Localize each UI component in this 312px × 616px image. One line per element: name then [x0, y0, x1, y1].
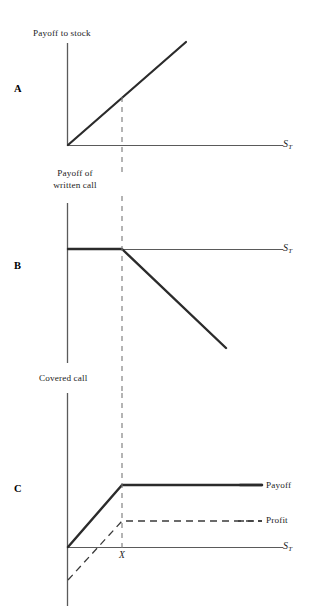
panel-a-graphics [67, 42, 283, 146]
panel-b-x-axis-label: ST [283, 242, 292, 255]
panel-c-payoff-line [68, 485, 262, 547]
panel-b-graphics [67, 203, 283, 363]
panel-b-y-axis-title: Payoff of written call [53, 168, 96, 191]
covered-call-figure: Payoff to stock A ST Payoff of written c… [0, 0, 312, 616]
legend-profit-label: Profit [266, 515, 288, 527]
panel-b-x-axis-label-sub: T [288, 247, 292, 255]
panel-a-x-axis-label: ST [283, 138, 292, 151]
panel-a-letter: A [14, 82, 22, 95]
panel-a-x-axis-label-sub: T [288, 143, 292, 151]
panel-c-letter: C [14, 482, 22, 495]
panel-b-y-axis-title-line2: written call [53, 180, 96, 192]
panel-c-legend-swatches [238, 485, 262, 521]
panel-b-letter: B [14, 259, 21, 272]
panel-a-stock-payoff-line [68, 42, 186, 145]
panel-b-y-axis-title-line1: Payoff of [53, 168, 96, 180]
panel-b-written-call-payoff-line [68, 249, 226, 348]
panel-a-y-axis-title: Payoff to stock [33, 28, 91, 40]
panel-c-profit-line [68, 521, 262, 580]
panel-c-y-axis-title: Covered call [39, 373, 87, 385]
panel-c-strike-label: X [119, 550, 125, 562]
panel-c-x-axis-label: ST [283, 540, 292, 553]
legend-payoff-label: Payoff [266, 480, 291, 492]
panel-c-graphics [67, 393, 283, 606]
panel-c-x-axis-label-sub: T [288, 545, 292, 553]
